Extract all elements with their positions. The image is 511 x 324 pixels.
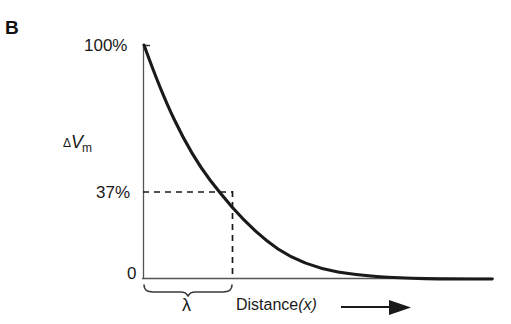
brace-lambda bbox=[144, 285, 232, 296]
figure-panel-b: B 100% 37% 0 ΔVm λ Distance(x) bbox=[0, 0, 511, 324]
plot-canvas bbox=[0, 0, 511, 324]
x-axis-arrow-head bbox=[389, 300, 411, 315]
decay-curve bbox=[144, 45, 492, 279]
